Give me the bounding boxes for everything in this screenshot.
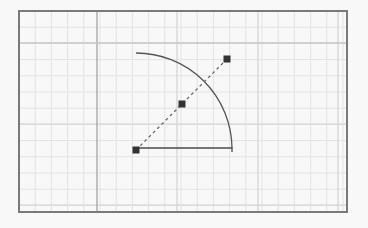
minor-grid <box>19 11 347 212</box>
end-handle[interactable] <box>224 56 231 63</box>
radius-line-shape[interactable] <box>136 148 232 152</box>
start-handle[interactable] <box>133 147 140 154</box>
mid-handle[interactable] <box>179 101 186 108</box>
canvas-frame <box>19 11 347 212</box>
major-grid <box>19 11 347 212</box>
grid-canvas-svg[interactable] <box>0 0 368 228</box>
drawing-canvas[interactable] <box>0 0 368 228</box>
